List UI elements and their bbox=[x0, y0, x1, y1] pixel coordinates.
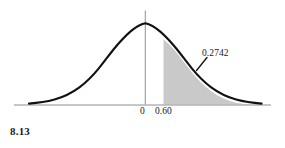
axis-tick-label-mean: 0 bbox=[140, 106, 145, 117]
distribution-plot bbox=[0, 0, 285, 148]
annotation-leader-line bbox=[197, 58, 208, 71]
normal-distribution-figure: 0 0.60 0.2742 8.13 bbox=[0, 0, 285, 148]
axis-tick-label-cutoff: 0.60 bbox=[155, 106, 172, 117]
shaded-area-value-label: 0.2742 bbox=[202, 48, 229, 59]
figure-number-label: 8.13 bbox=[10, 125, 30, 138]
